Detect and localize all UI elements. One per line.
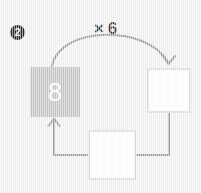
curved-arrow-head bbox=[162, 55, 175, 64]
value-box-start-text: 8 bbox=[48, 78, 62, 107]
curved-arrow-path bbox=[52, 35, 168, 66]
answer-box-right[interactable] bbox=[147, 68, 191, 113]
connector-start-to-right bbox=[52, 35, 175, 66]
problem-number-badge: 2 bbox=[10, 25, 25, 40]
worksheet-problem-canvas: 2 × 6 8 bbox=[0, 0, 201, 193]
elbow-line-path bbox=[137, 113, 169, 155]
connector-bottom-to-start bbox=[49, 119, 88, 156]
connector-right-to-bottom bbox=[137, 113, 169, 155]
value-box-start: 8 bbox=[30, 67, 80, 117]
answer-box-bottom[interactable] bbox=[88, 130, 136, 180]
operation-label: × 6 bbox=[94, 19, 117, 39]
